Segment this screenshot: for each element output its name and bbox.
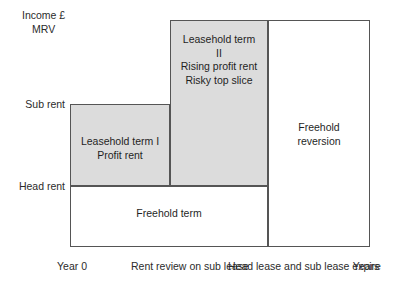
x-tick-head-lease-expire: Head lease and sub lease expire: [228, 260, 314, 273]
region-leasehold-term-1: Leasehold term I Profit rent: [70, 104, 170, 186]
label-line: Year 0: [57, 260, 87, 272]
region-freehold-reversion: Freehold reversion: [268, 20, 370, 247]
label-line: Leasehold term I: [71, 135, 169, 149]
label-line: Risky top slice: [171, 74, 267, 88]
y-axis-title-line1: Income £: [22, 8, 65, 22]
label-line: Rent review: [131, 260, 186, 272]
label-line: Leasehold term: [171, 33, 267, 47]
region-leasehold-term-2: Leasehold term II Rising profit rent Ris…: [170, 20, 268, 186]
region-freehold-term-label: Freehold term: [71, 207, 267, 221]
y-axis-title-line2: MRV: [32, 22, 55, 36]
diagram-canvas: Income £ MRV Sub rent Head rent Freehold…: [0, 0, 401, 302]
label-line: Rising profit rent: [171, 60, 267, 74]
region-freehold-reversion-label: Freehold reversion: [269, 121, 369, 148]
label-line: Freehold: [269, 121, 369, 135]
x-tick-year-0: Year 0: [46, 260, 98, 273]
region-freehold-term: Freehold term: [70, 186, 268, 247]
label-line: Years: [353, 260, 379, 272]
region-leasehold-term-1-label: Leasehold term I Profit rent: [71, 135, 169, 162]
label-line: Head lease and: [228, 260, 302, 272]
x-axis-title-years: Years: [344, 260, 388, 273]
x-tick-rent-review: Rent review on sub lease: [131, 260, 211, 273]
y-tick-head-rent: Head rent: [19, 180, 65, 192]
label-line: Freehold term: [71, 207, 267, 221]
label-line: Profit rent: [71, 149, 169, 163]
label-line: reversion: [269, 135, 369, 149]
label-line: II: [171, 47, 267, 61]
y-tick-sub-rent: Sub rent: [25, 98, 65, 110]
plot-area: Freehold reversion Freehold term Leaseho…: [70, 20, 370, 247]
region-leasehold-term-2-label: Leasehold term II Rising profit rent Ris…: [171, 33, 267, 87]
